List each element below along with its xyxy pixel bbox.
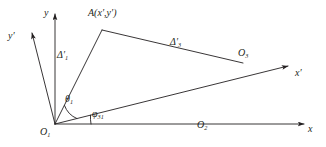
- phi-31-angle-label: φ31: [92, 109, 104, 120]
- x-prime-axis-line: [55, 66, 288, 124]
- delta-1-prime-label: Δ′1: [57, 50, 68, 61]
- theta-1-arc: [65, 106, 77, 119]
- o3-subscript: 3: [245, 52, 248, 59]
- x-prime-axis-label: x′: [295, 68, 302, 78]
- phi-31-arc: [90, 115, 91, 124]
- o3-point-label: O3: [238, 48, 248, 59]
- delta-3-prime-subscript: 3: [178, 41, 181, 48]
- diagram-svg: [0, 0, 326, 147]
- theta-1-angle-label: θ1: [65, 94, 73, 105]
- point-a-label: A(x′,y′): [88, 8, 117, 18]
- y-prime-axis-label: y′: [8, 31, 15, 41]
- theta-1-subscript: 1: [70, 98, 73, 105]
- o1-point-label: O1: [40, 127, 50, 138]
- delta-3-prime-label: Δ′3: [170, 37, 181, 48]
- y-prime-axis-line: [32, 33, 55, 124]
- o2-point-label: O2: [197, 120, 207, 131]
- o2-subscript: 2: [204, 124, 207, 131]
- figure-canvas: y y′ A(x′,y′) Δ′1 Δ′3 O3 x′ θ1 φ31 O1 O2…: [0, 0, 326, 147]
- y-axis-label: y: [44, 8, 48, 18]
- o1-subscript: 1: [47, 131, 50, 138]
- delta-1-prime-subscript: 1: [65, 54, 68, 61]
- x-axis-label: x: [308, 124, 312, 134]
- phi-31-subscript: 31: [98, 113, 104, 120]
